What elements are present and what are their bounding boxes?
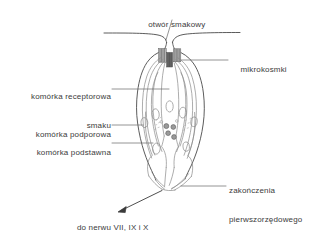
label-taste-pore: otwór smakowy	[118, 10, 226, 39]
nerve-fibre	[169, 167, 174, 185]
label-taste-pore-text: otwór smakowy	[148, 20, 205, 29]
cell-outline-receptor-foot	[162, 136, 167, 168]
label-basal-cell-text: komórka podstawna	[37, 148, 111, 157]
label-microvilli: mikrokosmki	[231, 55, 327, 84]
synaptic-vesicle	[166, 131, 171, 136]
label-afferent-endings: zakończenia pierwszorzędowego aferentu s…	[229, 167, 331, 238]
cell-outline-supporting-far-left-inner	[146, 60, 163, 156]
label-afferent-endings-line1: zakończenia	[229, 186, 331, 196]
label-to-nerve-text: do nerwu VII, IX i X	[77, 223, 149, 232]
label-basal-cell: komórka podstawna	[6, 138, 111, 167]
synaptic-vesicle	[171, 125, 176, 130]
label-afferent-endings-line2: pierwszorzędowego	[229, 215, 331, 225]
microvilli-tuft-center	[167, 53, 173, 68]
nucleus	[166, 101, 173, 112]
label-receptor-cell-line1: komórka receptorowa	[6, 92, 111, 102]
synaptic-vesicle	[164, 124, 169, 129]
nucleus	[190, 117, 197, 127]
nerve-arrow-head	[118, 207, 126, 213]
taste-bud-diagram-page: otwór smakowy mikrokosmki komórka recept…	[0, 0, 332, 238]
nerve-arrow-group	[118, 191, 162, 213]
label-to-nerve: do nerwu VII, IX i X	[48, 213, 168, 238]
microvilli-tuft-right	[173, 49, 180, 62]
synaptic-vesicle	[172, 135, 177, 140]
label-microvilli-text: mikrokosmki	[241, 65, 287, 74]
nucleus	[152, 143, 161, 155]
nerve-fibre	[165, 168, 167, 187]
cell-outline-receptor-foot-right	[174, 137, 178, 168]
taste-bud-cells-group	[142, 58, 196, 177]
nerve-fibre	[175, 176, 192, 190]
nucleus	[152, 109, 160, 121]
leader-lines-group	[112, 20, 228, 186]
microvillus-bar	[173, 49, 180, 62]
cell-outline-supporting-left	[153, 62, 164, 152]
nerve-fibre-bundle	[162, 189, 176, 191]
